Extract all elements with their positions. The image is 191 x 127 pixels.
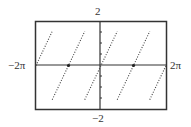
y-min-label: −2 — [92, 113, 104, 124]
zero-dot — [132, 64, 135, 67]
graph-canvas — [0, 0, 191, 127]
curve-branch-5 — [150, 66, 166, 100]
y-max-label: 2 — [95, 6, 101, 17]
x-min-label: −2π — [8, 60, 25, 71]
x-max-label: 2π — [170, 60, 181, 71]
zero-dot — [67, 64, 70, 67]
curve-branch-1 — [36, 31, 52, 65]
